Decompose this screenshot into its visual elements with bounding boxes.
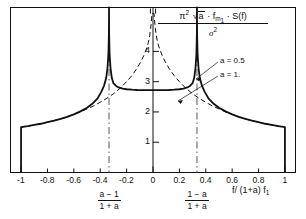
fraction-bar bbox=[158, 23, 268, 24]
y-tick-label: 3 bbox=[145, 77, 150, 86]
right-pole-numerator: 1 − a bbox=[185, 190, 208, 199]
x-axis-title: f/ (1+a) f1 bbox=[232, 186, 269, 195]
right-pole-denominator: 1 + a bbox=[185, 202, 208, 211]
x-tick-label: -0.6 bbox=[66, 176, 81, 185]
x-tick-label: -0.4 bbox=[93, 176, 108, 185]
y-axis-label: π2 √a · fm1 · S(f) σ2 bbox=[158, 9, 268, 39]
y-tick-label: 1 bbox=[145, 137, 150, 146]
x-tick-label: -0.2 bbox=[119, 176, 134, 185]
legend-label-a-0.5: a = 0.5 bbox=[220, 57, 245, 65]
y-axis-label-denominator: σ2 bbox=[158, 26, 268, 39]
f-subscript: m1 bbox=[215, 15, 224, 22]
left-pole-fraction-label: a − 1 1 + a bbox=[98, 190, 121, 211]
y-tick-label: 4 bbox=[145, 46, 150, 55]
sqrt-icon: √a bbox=[192, 11, 205, 22]
x-tick-label: -0.8 bbox=[40, 176, 55, 185]
x-tick-label: 1 bbox=[282, 176, 287, 185]
left-pole-numerator: a − 1 bbox=[98, 190, 121, 199]
figure-root: π2 √a · fm1 · S(f) σ2 a = 0.5 a = 1. -1-… bbox=[0, 0, 306, 219]
x-tick-label: 0.8 bbox=[253, 176, 265, 185]
x-tick-label: 0.4 bbox=[200, 176, 212, 185]
legend-label-a-1: a = 1. bbox=[220, 71, 240, 79]
x-tick-label: 0 bbox=[151, 176, 156, 185]
left-pole-denominator: 1 + a bbox=[98, 202, 121, 211]
y-tick-label: 2 bbox=[145, 107, 150, 116]
x-tick-label: -1 bbox=[17, 176, 25, 185]
right-pole-fraction-label: 1 − a 1 + a bbox=[185, 190, 208, 211]
y-axis-label-numerator: π2 √a · fm1 · S(f) bbox=[158, 9, 268, 22]
y-axis-ticks bbox=[153, 51, 159, 142]
x-tick-label: 0.2 bbox=[173, 176, 185, 185]
x-tick-label: 0.6 bbox=[226, 176, 238, 185]
